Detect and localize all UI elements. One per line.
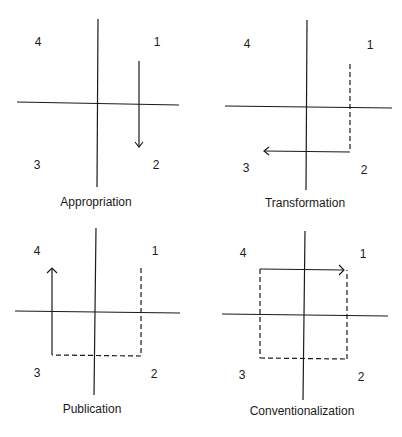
dashed-path <box>260 358 346 359</box>
panel-caption: Transformation <box>265 197 345 209</box>
quadrant-label-4: 4 <box>240 247 247 259</box>
quadrant-label-3: 3 <box>34 367 41 379</box>
quadrant-label-1: 1 <box>367 39 374 51</box>
diagram-canvas <box>0 0 402 437</box>
horizontal-axis <box>15 311 180 313</box>
quadrant-label-4: 4 <box>35 36 42 48</box>
quadrant-label-3: 3 <box>243 162 250 174</box>
panel-caption: Appropriation <box>60 196 131 208</box>
arrow-shaft <box>260 269 344 270</box>
panel-caption: Publication <box>63 403 122 415</box>
horizontal-axis <box>225 106 392 108</box>
vertical-axis <box>306 20 307 190</box>
horizontal-axis <box>222 314 388 316</box>
quadrant-label-4: 4 <box>244 38 251 50</box>
quadrant-label-3: 3 <box>34 159 41 171</box>
arrow-shaft <box>264 151 350 152</box>
quadrant-label-4: 4 <box>34 245 41 257</box>
quadrant-label-1: 1 <box>154 36 161 48</box>
quadrant-label-1: 1 <box>152 245 159 257</box>
dashed-path <box>52 355 141 356</box>
quadrant-label-1: 1 <box>360 248 367 260</box>
quadrant-label-2: 2 <box>361 164 368 176</box>
panel-caption: Conventionalization <box>250 405 355 417</box>
quadrant-label-2: 2 <box>358 371 365 383</box>
quadrant-label-2: 2 <box>153 159 160 171</box>
quadrant-label-3: 3 <box>239 369 246 381</box>
quadrant-label-2: 2 <box>151 368 158 380</box>
